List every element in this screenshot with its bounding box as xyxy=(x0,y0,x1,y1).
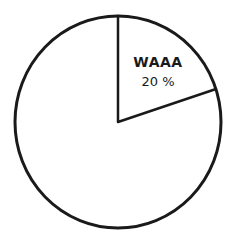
slice-label: WAAA xyxy=(128,54,188,70)
pie-chart xyxy=(0,0,234,248)
slice-percent: 20 % xyxy=(128,74,188,89)
